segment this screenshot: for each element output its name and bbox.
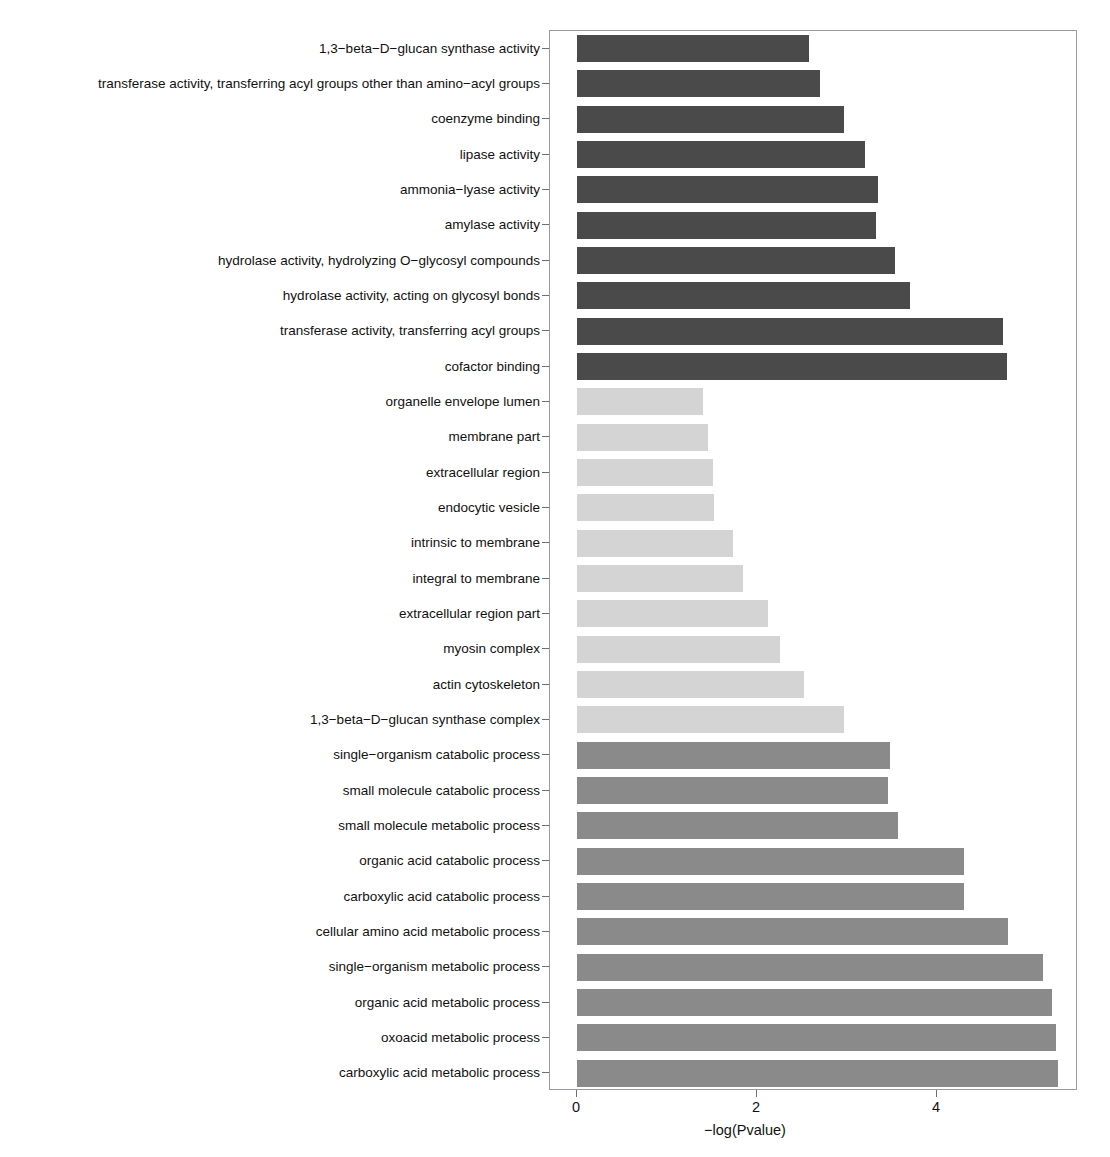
- y-axis-tick: [542, 931, 549, 932]
- bar[interactable]: [577, 954, 1043, 981]
- y-axis-tick: [542, 542, 549, 543]
- x-axis-tick: [576, 1090, 577, 1097]
- bar-row: [550, 632, 1076, 667]
- bar[interactable]: [577, 247, 895, 274]
- y-axis-label: integral to membrane: [0, 571, 540, 586]
- y-axis-tick: [542, 48, 549, 49]
- y-axis-tick: [542, 684, 549, 685]
- bar-row: [550, 314, 1076, 349]
- y-axis-label: extracellular region part: [0, 606, 540, 621]
- bar[interactable]: [577, 565, 743, 592]
- bar[interactable]: [577, 706, 844, 733]
- y-axis-tick: [542, 648, 549, 649]
- y-axis-label: amylase activity: [0, 217, 540, 232]
- x-axis-title: −log(Pvalue): [0, 1122, 1110, 1138]
- y-axis-tick: [542, 1072, 549, 1073]
- y-axis-label: transferase activity, transferring acyl …: [0, 323, 540, 338]
- plot-panel: [549, 30, 1077, 1090]
- bar-row: [550, 1020, 1076, 1055]
- y-axis-label: cofactor binding: [0, 359, 540, 374]
- x-axis-tick-label: 2: [752, 1099, 760, 1115]
- bar[interactable]: [577, 212, 876, 239]
- y-axis-tick: [542, 507, 549, 508]
- y-axis-label: organelle envelope lumen: [0, 394, 540, 409]
- bar-row: [550, 808, 1076, 843]
- bar-row: [550, 1056, 1076, 1091]
- bar-row: [550, 773, 1076, 808]
- bar-row: [550, 526, 1076, 561]
- bar[interactable]: [577, 600, 768, 627]
- y-axis-label: myosin complex: [0, 641, 540, 656]
- bar-row: [550, 738, 1076, 773]
- go-enrichment-bar-chart: 1,3−beta−D−glucan synthase activitytrans…: [0, 0, 1110, 1157]
- bar[interactable]: [577, 636, 780, 663]
- y-axis-label: single−organism catabolic process: [0, 747, 540, 762]
- bar[interactable]: [577, 1060, 1058, 1087]
- bar[interactable]: [577, 530, 733, 557]
- bar[interactable]: [577, 388, 703, 415]
- y-axis-label: intrinsic to membrane: [0, 535, 540, 550]
- bar-row: [550, 349, 1076, 384]
- bar[interactable]: [577, 742, 890, 769]
- bar-row: [550, 278, 1076, 313]
- bar[interactable]: [577, 918, 1008, 945]
- y-axis-label: single−organism metabolic process: [0, 959, 540, 974]
- bar[interactable]: [577, 812, 898, 839]
- bar[interactable]: [577, 424, 708, 451]
- bar[interactable]: [577, 106, 844, 133]
- bar[interactable]: [577, 1024, 1056, 1051]
- y-axis-label: organic acid catabolic process: [0, 853, 540, 868]
- bar-row: [550, 985, 1076, 1020]
- bar[interactable]: [577, 282, 910, 309]
- y-axis-tick: [542, 154, 549, 155]
- y-axis-tick: [542, 401, 549, 402]
- y-axis-label: coenzyme binding: [0, 111, 540, 126]
- x-axis-tick-label: 4: [932, 1099, 940, 1115]
- y-axis-tick: [542, 83, 549, 84]
- bar[interactable]: [577, 318, 1003, 345]
- bar-row: [550, 561, 1076, 596]
- bar[interactable]: [577, 70, 820, 97]
- x-axis-tick: [756, 1090, 757, 1097]
- y-axis-tick: [542, 578, 549, 579]
- bar-row: [550, 950, 1076, 985]
- bar[interactable]: [577, 883, 964, 910]
- bar-row: [550, 102, 1076, 137]
- y-axis-tick: [542, 189, 549, 190]
- y-axis-tick: [542, 860, 549, 861]
- bar-row: [550, 914, 1076, 949]
- bar-row: [550, 596, 1076, 631]
- y-axis-label: small molecule metabolic process: [0, 818, 540, 833]
- y-axis-label: extracellular region: [0, 465, 540, 480]
- y-axis-tick: [542, 118, 549, 119]
- y-axis-label: oxoacid metabolic process: [0, 1030, 540, 1045]
- y-axis-label: hydrolase activity, acting on glycosyl b…: [0, 288, 540, 303]
- y-axis-tick: [542, 754, 549, 755]
- bar-row: [550, 879, 1076, 914]
- y-axis-tick: [542, 295, 549, 296]
- bar[interactable]: [577, 176, 878, 203]
- y-axis-tick: [542, 790, 549, 791]
- y-axis-label: transferase activity, transferring acyl …: [0, 76, 540, 91]
- x-axis-title-text: −log(Pvalue): [704, 1122, 786, 1138]
- bar[interactable]: [577, 35, 809, 62]
- bar[interactable]: [577, 848, 964, 875]
- y-axis-tick: [542, 966, 549, 967]
- y-axis-tick: [542, 224, 549, 225]
- y-axis-tick: [542, 825, 549, 826]
- y-axis-tick: [542, 436, 549, 437]
- bar[interactable]: [577, 671, 804, 698]
- y-axis-label: 1,3−beta−D−glucan synthase complex: [0, 712, 540, 727]
- y-axis-label: lipase activity: [0, 147, 540, 162]
- y-axis-label: actin cytoskeleton: [0, 677, 540, 692]
- bar[interactable]: [577, 353, 1007, 380]
- bar[interactable]: [577, 989, 1052, 1016]
- x-axis-tick: [936, 1090, 937, 1097]
- bar[interactable]: [577, 777, 888, 804]
- bar[interactable]: [577, 459, 713, 486]
- bar[interactable]: [577, 141, 865, 168]
- bar[interactable]: [577, 494, 714, 521]
- bar-row: [550, 490, 1076, 525]
- y-axis-label: 1,3−beta−D−glucan synthase activity: [0, 41, 540, 56]
- y-axis-label: carboxylic acid catabolic process: [0, 889, 540, 904]
